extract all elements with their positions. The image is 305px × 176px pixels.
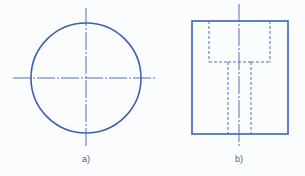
hidden-counterbore [209,21,270,62]
figure-a [13,8,157,146]
body-outline [192,21,288,134]
figure-b-label: b) [235,155,243,164]
figure-b [192,4,288,146]
hidden-through-hole [228,62,251,134]
figure-a-label: a) [82,155,90,164]
technical-drawing [0,0,305,176]
